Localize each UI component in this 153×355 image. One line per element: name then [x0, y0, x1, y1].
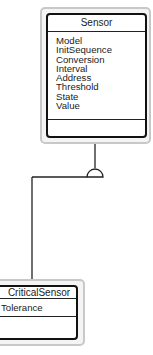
critical-sensor-name-divider	[0, 298, 76, 299]
critical-sensor-attributes: Tolerance	[1, 302, 43, 313]
sensor-class-name: Sensor	[48, 17, 145, 29]
sensor-attributes: Model InitSequence Conversion Interval A…	[56, 36, 112, 110]
sensor-class[interactable]: Sensor Model InitSequence Conversion Int…	[46, 13, 147, 138]
generalization-semicircle-icon	[87, 169, 103, 177]
sensor-attribute: Value	[56, 101, 112, 110]
critical-sensor-attributes-divider	[0, 316, 76, 317]
sensor-name-divider	[48, 31, 145, 32]
critical-sensor-attribute: Tolerance	[1, 302, 43, 313]
critical-sensor-class[interactable]: CriticalSensor Tolerance	[0, 285, 78, 340]
sensor-attributes-divider	[48, 119, 145, 120]
